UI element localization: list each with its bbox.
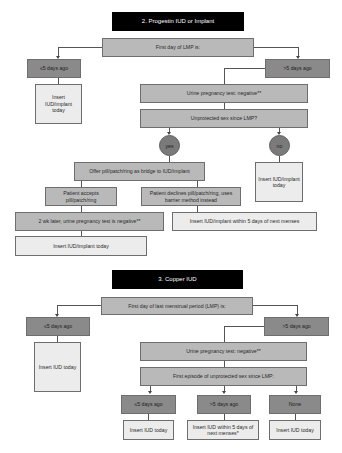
s3-urine-test-box: Urine pregnancy test: negative** <box>140 342 307 361</box>
connector <box>224 326 225 342</box>
section-2-title: 2. Progestin IUD or Implant <box>112 12 244 31</box>
arrow-down-icon <box>294 391 298 394</box>
s2-le5-box: ≤5 days ago <box>27 59 81 78</box>
s2-insert-no-box: Insert IUD/implant today <box>255 162 303 202</box>
s2-accepts-box: Patient accepts pill/patch/ring <box>45 187 117 206</box>
s3-ep-none-box: None <box>269 395 321 414</box>
connector <box>253 305 297 306</box>
s2-insert-today-box: Insert IUD/implant today <box>15 236 147 256</box>
connector <box>57 305 101 306</box>
arrow-down-icon <box>222 391 226 394</box>
connector <box>224 68 225 84</box>
s2-unprotected-box: Unprotected sex since LMP? <box>140 109 308 128</box>
s2-gt5-box: >5 days ago <box>265 59 330 78</box>
s3-first-day-box: First day of last menstrual period (LMP)… <box>101 297 253 315</box>
s2-offer-box: Offer pill/patch/ring as bridge to IUD/i… <box>74 162 205 181</box>
s3-out-none-box: Insert IUD today <box>269 420 321 440</box>
section-3-title: 3. Copper IUD <box>112 270 243 289</box>
s2-within5-box: Insert IUD/implant within 5 days of next… <box>172 212 317 231</box>
s2-insert-left-box: Insert IUD/implant today <box>35 84 82 124</box>
connector <box>224 68 265 69</box>
s3-le5-box: ≤5 days ago <box>26 317 90 336</box>
s2-declines-box: Patient declines pill/patch/ring, uses b… <box>141 187 241 206</box>
connector <box>224 326 264 327</box>
s3-ep-le5-box: ≤5 days ago <box>121 395 176 414</box>
s2-urine-test-box: Urine pregnancy test: negative** <box>140 84 308 103</box>
s3-ep-gt5-box: >5 days ago <box>197 395 251 414</box>
arrow-down-icon <box>148 391 152 394</box>
s2-yes-circle: yes <box>159 135 180 156</box>
s3-out-gt5-box: Insert IUD within 5 days of next menses* <box>187 420 259 440</box>
connector <box>58 47 102 48</box>
s2-two-wk-box: 2 wk later, urine pregnancy test is nega… <box>15 212 164 231</box>
connector <box>254 47 298 48</box>
s2-no-circle: no <box>269 135 290 156</box>
s3-out-le5-box: Insert IUD today <box>123 420 174 440</box>
s2-first-day-box: First day of LMP is: <box>102 38 254 57</box>
s3-gt5-box: >5 days ago <box>264 317 329 336</box>
s3-first-episode-box: First episode of unprotected sex since L… <box>140 367 307 386</box>
s3-insert-left-box: Insert IUD today <box>34 342 81 392</box>
